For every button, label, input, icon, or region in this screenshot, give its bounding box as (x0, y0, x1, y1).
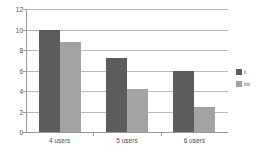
y-tick-label: 8 (3, 47, 23, 54)
bar (39, 30, 60, 133)
legend-item[interactable]: int (236, 80, 266, 87)
y-tick-label: 6 (3, 67, 23, 74)
bars-layer (26, 9, 228, 132)
x-tick-label: 4 users (26, 136, 93, 145)
legend: iiint (236, 68, 266, 92)
legend-swatch (236, 69, 242, 75)
x-tick-mark (161, 133, 162, 136)
y-tick-mark (23, 50, 26, 51)
legend-label: int (244, 81, 250, 87)
gridline (26, 132, 228, 133)
legend-swatch (236, 81, 242, 87)
y-tick-mark (23, 112, 26, 113)
y-tick-label: 12 (3, 6, 23, 13)
bar-group (106, 9, 148, 132)
bar (60, 42, 81, 132)
bar (106, 58, 127, 132)
bar (173, 71, 194, 133)
y-tick-mark (23, 71, 26, 72)
y-axis-tick-labels: 024681012 (0, 9, 23, 132)
x-tick-label: 5 users (93, 136, 160, 145)
bar-group (173, 9, 215, 132)
y-tick-mark (23, 9, 26, 10)
y-tick-mark (23, 30, 26, 31)
legend-label: ii (244, 69, 246, 75)
x-tick-label: 6 users (161, 136, 228, 145)
bar (127, 89, 148, 132)
y-tick-mark (23, 132, 26, 133)
legend-item[interactable]: ii (236, 68, 266, 75)
y-tick-label: 4 (3, 88, 23, 95)
bar-chart: 024681012 4 users5 users6 users iiint (0, 0, 266, 162)
y-tick-mark (23, 91, 26, 92)
y-tick-label: 0 (3, 129, 23, 136)
y-tick-label: 2 (3, 108, 23, 115)
y-tick-label: 10 (3, 26, 23, 33)
x-axis-tick-labels: 4 users5 users6 users (26, 136, 228, 150)
x-tick-mark (93, 133, 94, 136)
bar (194, 107, 215, 132)
bar-group (39, 9, 81, 132)
